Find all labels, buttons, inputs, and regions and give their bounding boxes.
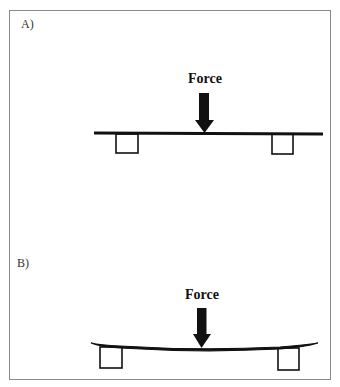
panel-a-force-arrow-icon — [195, 93, 214, 133]
panel-b-force-arrow-icon — [193, 308, 211, 348]
panel-b-diagram — [91, 308, 318, 370]
beam-diagram — [0, 0, 340, 387]
panel-b-right-support — [278, 348, 299, 370]
panel-a-right-support — [272, 134, 293, 154]
panel-a-beam — [94, 133, 323, 134]
panel-a-left-support — [116, 134, 138, 153]
panel-b-left-support — [100, 347, 122, 368]
panel-a-diagram — [94, 93, 323, 154]
